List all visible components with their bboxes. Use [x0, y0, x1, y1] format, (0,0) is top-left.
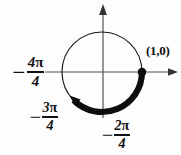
- unit-circle-figure: (1,0) − 4π 4 − 3π 4 − 2π 4: [0, 0, 181, 155]
- point-label: (1,0): [146, 44, 169, 57]
- minus-sign-left: −: [12, 64, 25, 81]
- unit-point-marker: [138, 68, 147, 77]
- fraction-lower-left: 3π 4: [42, 101, 59, 133]
- y-axis-arrowhead-icon: [99, 4, 107, 15]
- minus-sign-lower-left: −: [30, 110, 42, 125]
- fraction-left-numerator: 4π: [27, 55, 45, 71]
- x-axis-arrowhead-icon: [168, 68, 178, 75]
- fraction-bottom-denominator: 4: [117, 136, 126, 151]
- fraction-bottom-numerator: 2π: [114, 119, 131, 134]
- fraction-left-denominator: 4: [31, 73, 41, 89]
- y-axis: [99, 4, 107, 118]
- swept-arc: [74, 72, 142, 112]
- angle-label-bottom: − 2π 4: [103, 119, 130, 151]
- fraction-lower-left-denominator: 4: [45, 118, 54, 133]
- fraction-bottom: 2π 4: [114, 119, 131, 151]
- angle-label-left: − 4π 4: [14, 55, 44, 89]
- minus-sign-bottom: −: [102, 128, 114, 143]
- x-axis: [45, 68, 178, 75]
- fraction-lower-left-numerator: 3π: [42, 101, 59, 116]
- angle-label-lower-left: − 3π 4: [31, 101, 58, 133]
- fraction-left: 4π 4: [27, 55, 45, 89]
